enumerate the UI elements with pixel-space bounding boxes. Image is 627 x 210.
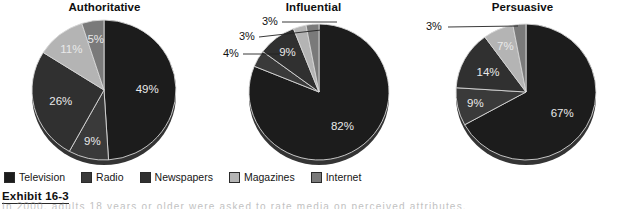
- legend-item-label: Radio: [96, 172, 123, 183]
- legend-swatch-icon: [311, 172, 322, 183]
- pie-slice-label: 3%: [262, 15, 278, 27]
- pie-slice-label: 11%: [60, 43, 82, 55]
- pie-slice-label: 5%: [87, 33, 104, 45]
- exhibit-figure: Authoritative 49%9%26%11%5% Influential …: [0, 0, 627, 210]
- legend-swatch-icon: [4, 172, 15, 183]
- chart-legend: TelevisionRadioNewspapersMagazinesIntern…: [4, 169, 377, 185]
- legend-item: Magazines: [229, 172, 295, 183]
- legend-swatch-icon: [229, 172, 240, 183]
- pie-chart-influential: Influential 82%4%9%3%3%: [209, 0, 418, 168]
- legend-item: Internet: [311, 172, 362, 183]
- caption-block: Exhibit 16-3 In 2000, adults 18 years or…: [2, 186, 625, 204]
- pie-slice-label: 9%: [467, 97, 484, 109]
- legend-item-label: Magazines: [244, 172, 295, 183]
- pie-slice-label: 3%: [426, 20, 442, 32]
- pie-chart-authoritative: Authoritative 49%9%26%11%5%: [0, 0, 209, 168]
- pie-slice-label: 9%: [84, 135, 101, 147]
- pie-svg-influential: 82%4%9%3%3%: [209, 0, 418, 168]
- legend-item-label: Internet: [326, 172, 362, 183]
- legend-item-label: Television: [19, 172, 65, 183]
- pie-canvas-persuasive: 67%9%14%7%3%: [418, 0, 627, 168]
- pie-slice-label: 26%: [49, 95, 72, 107]
- pie-svg-authoritative: 49%9%26%11%5%: [0, 0, 209, 168]
- pie-slice-label: 9%: [279, 46, 296, 58]
- pie-chart-persuasive: Persuasive 67%9%14%7%3%: [418, 0, 627, 168]
- legend-item-label: Newspapers: [155, 172, 213, 183]
- pie-slice-label: 67%: [551, 107, 574, 119]
- pie-slice-label: 3%: [239, 30, 255, 42]
- pie-slice-label: 49%: [136, 83, 159, 95]
- caption-description: In 2000, adults 18 years or older were a…: [2, 201, 625, 209]
- pie-canvas-influential: 82%4%9%3%3%: [209, 0, 418, 168]
- pie-slice-label: 14%: [476, 66, 499, 78]
- legend-swatch-icon: [140, 172, 151, 183]
- pie-charts-row: Authoritative 49%9%26%11%5% Influential …: [0, 0, 627, 168]
- pie-slice-label: 82%: [331, 120, 354, 132]
- legend-swatch-icon: [81, 172, 92, 183]
- legend-item: Radio: [81, 172, 123, 183]
- legend-item: Television: [4, 172, 65, 183]
- pie-canvas-authoritative: 49%9%26%11%5%: [0, 0, 209, 168]
- legend-item: Newspapers: [140, 172, 213, 183]
- pie-slice-label: 7%: [497, 40, 514, 52]
- pie-slice-label: 4%: [223, 47, 239, 59]
- pie-svg-persuasive: 67%9%14%7%3%: [418, 0, 627, 168]
